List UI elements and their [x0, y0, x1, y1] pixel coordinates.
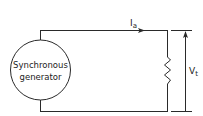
generator-label-line1: Synchronous [13, 60, 68, 70]
generator-label-line2: generator [20, 72, 62, 82]
current-label: Ia [130, 18, 137, 30]
voltage-label: Vt [189, 66, 198, 78]
circuit-diagram: Synchronous generator Ia Vt [0, 0, 203, 116]
resistor-icon [165, 57, 171, 84]
synchronous-generator [11, 40, 71, 100]
